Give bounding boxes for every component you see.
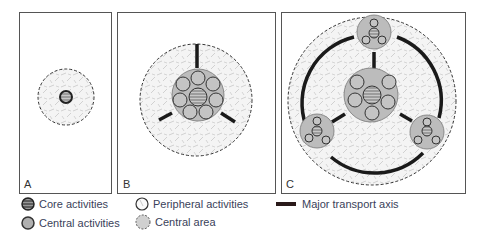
legend-transport: Major transport axis [276, 196, 399, 212]
panel-a: A [20, 13, 112, 194]
legend-peripheral: Peripheral activities [135, 196, 248, 212]
panel-label-c: C [286, 178, 294, 190]
peripheral-activities-icon [135, 197, 149, 211]
legend-central-area-label: Central area [155, 216, 216, 228]
legend-central-activities: Central activities [21, 215, 120, 231]
panel-label-b: B [123, 178, 130, 190]
panel-c: C [282, 13, 466, 194]
transport-axis-icon [276, 199, 298, 209]
core-activities-icon [21, 197, 35, 211]
legend-peripheral-label: Peripheral activities [153, 198, 248, 210]
central-area-icon [135, 214, 151, 230]
panel-b: B [118, 13, 276, 194]
legend-central-area: Central area [135, 214, 216, 230]
legend-central-activities-label: Central activities [39, 217, 120, 229]
legend-transport-label: Major transport axis [302, 198, 399, 210]
legend-core: Core activities [21, 196, 108, 212]
central-activities-icon [21, 216, 35, 230]
panel-label-a: A [24, 178, 32, 190]
legend-core-label: Core activities [39, 198, 108, 210]
